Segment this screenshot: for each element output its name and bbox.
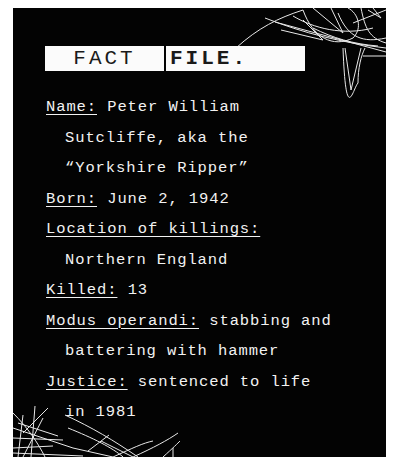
fact-list: Name: Peter William Sutcliffe, aka the “… [46, 96, 386, 432]
fact-name: Name: Peter William [46, 96, 386, 127]
title-fact: FACT [45, 46, 164, 71]
fact-modus-cont: battering with hammer [46, 340, 386, 371]
fact-value: Peter William [107, 98, 240, 116]
fact-modus: Modus operandi: stabbing and [46, 310, 386, 341]
fact-value: stabbing and [209, 312, 331, 330]
fact-file-title: FACT FILE. [45, 46, 305, 71]
fact-file-panel: FACT FILE. Name: Peter William Sutcliffe… [13, 8, 386, 457]
fact-born: Born: June 2, 1942 [46, 188, 386, 219]
fact-value: sentenced to life [138, 373, 311, 391]
fact-justice: Justice: sentenced to life [46, 371, 386, 402]
fact-killed: Killed: 13 [46, 279, 386, 310]
title-file: FILE. [166, 46, 305, 71]
fact-label: Born: [46, 190, 97, 208]
fact-value: June 2, 1942 [107, 190, 229, 208]
fact-location-value: Northern England [46, 249, 386, 280]
fact-label: Location of killings: [46, 220, 260, 238]
fact-location: Location of killings: [46, 218, 386, 249]
fact-label: Justice: [46, 373, 128, 391]
fact-name-cont: Sutcliffe, aka the [46, 127, 386, 158]
fact-name-cont: “Yorkshire Ripper” [46, 157, 386, 188]
fact-label: Killed: [46, 281, 117, 299]
fact-label: Name: [46, 98, 97, 116]
fact-justice-cont: in 1981 [46, 401, 386, 432]
fact-value: 13 [128, 281, 148, 299]
fact-label: Modus operandi: [46, 312, 199, 330]
